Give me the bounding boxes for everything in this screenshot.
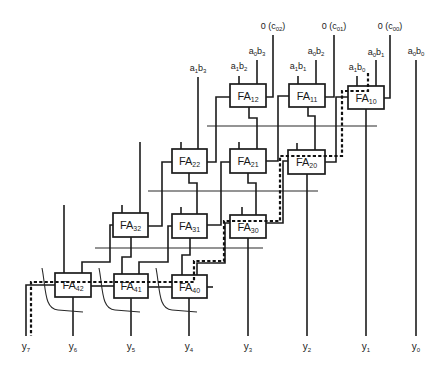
label-c02: 0 (c02)	[261, 21, 286, 32]
label-y3: y3	[244, 341, 253, 353]
label-y5: y5	[127, 341, 136, 353]
label-y2: y2	[303, 341, 312, 353]
wire-fa32-carry	[82, 225, 113, 273]
label-a1b3: a1b3	[190, 63, 207, 74]
output-labels: y7 y6 y5 y4 y3 y2 y1 y0	[22, 341, 421, 353]
wire-fa20-carry	[266, 161, 288, 223]
multiplier-diagram: 0 (c02) 0 (c01) 0 (c00) a0b3 a0b2 a0b1 a…	[0, 0, 446, 367]
wire-c01	[325, 35, 334, 97]
label-y0: y0	[412, 341, 421, 353]
wire-fa21-carry	[207, 162, 230, 225]
label-a1b1: a1b1	[290, 61, 307, 72]
wire-fa22-sum	[189, 173, 197, 214]
label-a0b3: a0b3	[249, 46, 266, 57]
label-a1b2: a1b2	[231, 61, 248, 72]
label-y1: y1	[362, 341, 371, 353]
carry-input-labels: 0 (c02) 0 (c01) 0 (c00)	[261, 21, 403, 32]
label-a0b2: a0b2	[308, 46, 325, 57]
wire-fa31-sum	[182, 238, 190, 275]
wire-c02	[266, 35, 273, 97]
label-a1b0: a1b0	[349, 62, 366, 73]
wire-fa32-sum	[122, 237, 131, 274]
wire-fa22-carry	[148, 162, 172, 226]
label-c01: 0 (c01)	[322, 21, 347, 32]
wire-fa11-carry	[266, 96, 289, 161]
label-y4: y4	[185, 341, 194, 353]
label-y7: y7	[22, 341, 31, 353]
label-y6: y6	[69, 341, 78, 353]
wire-c00	[384, 35, 390, 98]
label-a0b1: a0b1	[368, 47, 385, 58]
label-a0b0: a0b0	[408, 46, 425, 57]
wire-fa21-sum	[248, 173, 256, 215]
label-c00: 0 (c00)	[378, 21, 403, 32]
wire-fa11-sum	[308, 107, 315, 150]
wire-fa12-carry	[207, 97, 230, 162]
wire-fa10-carry	[325, 97, 348, 162]
wire-fa12-sum	[249, 107, 257, 149]
